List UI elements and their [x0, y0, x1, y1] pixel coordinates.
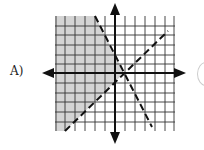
x-axis-right-arrow-icon: [174, 68, 186, 78]
inequality-graph: [0, 0, 204, 150]
x-axis-left-arrow-icon: [42, 68, 54, 78]
y-axis-down-arrow-icon: [110, 132, 120, 144]
y-axis-up-arrow-icon: [110, 3, 120, 15]
